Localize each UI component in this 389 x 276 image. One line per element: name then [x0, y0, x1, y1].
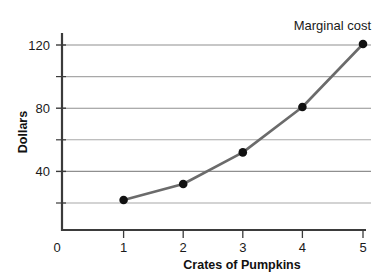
- gridlines-horizontal: [62, 45, 371, 203]
- data-point-3: [239, 148, 248, 157]
- series-annotation-marginal-cost: Marginal cost: [294, 18, 372, 33]
- marginal-cost-line-chart: 120 80 40 0 1 2 3 4 5 Crates of Pumpkins…: [0, 0, 389, 276]
- x-axis-title: Crates of Pumpkins: [183, 258, 300, 272]
- chart-canvas: 120 80 40 0 1 2 3 4 5 Crates of Pumpkins…: [0, 0, 389, 276]
- y-tick-label-120: 120: [28, 38, 50, 53]
- x-tick-label-4: 4: [299, 240, 306, 255]
- x-tick-label-5: 5: [359, 240, 366, 255]
- marginal-cost-line: [124, 44, 363, 200]
- x-tick-label-1: 1: [120, 240, 127, 255]
- y-tick-label-40: 40: [36, 164, 50, 179]
- data-point-1: [119, 196, 128, 205]
- data-point-5: [359, 40, 368, 49]
- y-axis-title: Dollars: [16, 111, 30, 153]
- data-point-markers: [119, 40, 367, 205]
- x-tick-label-3: 3: [239, 240, 246, 255]
- y-tick-label-80: 80: [36, 101, 50, 116]
- x-tick-label-0: 0: [53, 240, 60, 255]
- x-tick-label-2: 2: [180, 240, 187, 255]
- data-point-2: [179, 180, 188, 189]
- data-point-4: [298, 103, 307, 112]
- x-axis-ticks: [124, 230, 363, 238]
